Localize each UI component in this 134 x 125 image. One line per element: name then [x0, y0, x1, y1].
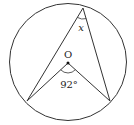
circle-diagram: O 92° x [0, 0, 134, 125]
inscribed-angle-arc [77, 17, 86, 19]
center-point [67, 62, 70, 65]
inscribed-angle-label: x [78, 22, 84, 33]
central-angle-label: 92° [60, 79, 78, 90]
center-label: O [64, 49, 72, 60]
chord-top-to-bottom-right [83, 8, 110, 101]
central-angle-arc [61, 70, 76, 73]
